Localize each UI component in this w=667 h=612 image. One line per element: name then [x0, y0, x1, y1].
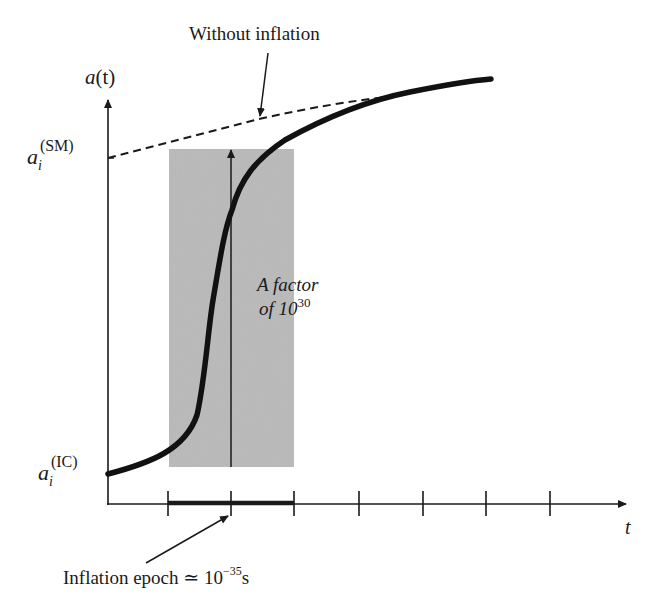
- a-ic-label: ai(IC): [38, 453, 78, 489]
- x-axis-label: t: [625, 516, 631, 538]
- factor-label-exp: 30: [298, 295, 311, 310]
- a-sm-label: ai(SM): [27, 137, 74, 173]
- factor-label-line2: of 1030: [259, 295, 311, 319]
- a-sm-sup: (SM): [40, 137, 74, 155]
- without-inflation-dashed-line: [108, 96, 395, 158]
- y-axis-label-main: a: [85, 65, 96, 89]
- inflation-diagram: Without inflation a(t) ai(SM) ai(IC) A f…: [0, 0, 667, 612]
- y-axis-label: a(t): [85, 65, 115, 89]
- a-ic-base: a: [38, 460, 49, 485]
- a-sm-sub: i: [38, 158, 42, 173]
- epoch-label-text: Inflation epoch ≃ 10: [63, 567, 223, 588]
- epoch-label-exp: −35: [223, 564, 242, 578]
- factor-label-line1: A factor: [255, 274, 319, 295]
- a-ic-sup: (IC): [51, 453, 78, 471]
- a-sm-base: a: [27, 144, 38, 169]
- factor-label-of: of 10: [259, 298, 298, 319]
- y-axis-label-paren: (t): [96, 65, 116, 89]
- without-inflation-label: Without inflation: [189, 23, 320, 44]
- inflation-epoch-label: Inflation epoch ≃ 10−35s: [63, 564, 249, 588]
- epoch-label-unit: s: [242, 567, 249, 588]
- epoch-pointer-arrow: [146, 516, 228, 563]
- without-inflation-pointer-arrow: [260, 53, 268, 116]
- a-ic-sub: i: [49, 474, 53, 489]
